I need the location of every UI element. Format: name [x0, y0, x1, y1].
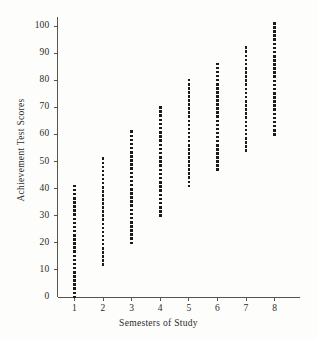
data-point [159, 114, 162, 117]
data-point [159, 181, 162, 184]
data-point [216, 103, 219, 106]
data-point [102, 259, 105, 262]
data-point [273, 117, 276, 120]
data-point [216, 156, 219, 159]
data-point [245, 137, 248, 140]
data-point [245, 79, 248, 82]
data-point [216, 71, 219, 74]
data-point [102, 194, 105, 197]
data-point [73, 267, 76, 270]
x-tick-label: 1 [68, 303, 82, 313]
data-point [216, 124, 219, 127]
data-point [159, 202, 162, 205]
scatter-plot-figure: 0102030405060708090100 12345678 Achievem… [0, 0, 317, 339]
data-point [130, 139, 133, 142]
data-point [216, 148, 219, 151]
y-tick-label: 40 [24, 183, 50, 193]
data-point [273, 63, 276, 66]
data-point [188, 120, 191, 123]
data-point [216, 75, 219, 78]
data-point [159, 160, 162, 163]
x-tick-label: 4 [153, 303, 167, 313]
data-point [130, 151, 133, 154]
data-point [245, 145, 248, 148]
data-point [245, 112, 248, 115]
data-point [245, 92, 248, 95]
data-point [102, 227, 105, 230]
data-point [73, 271, 76, 274]
data-point [245, 46, 248, 49]
data-point [130, 180, 133, 183]
data-point [216, 144, 219, 147]
data-point [102, 202, 105, 205]
data-point [273, 75, 276, 78]
data-point [159, 185, 162, 188]
data-point [216, 107, 219, 110]
data-point [130, 221, 133, 224]
data-point [159, 169, 162, 172]
data-point [73, 234, 76, 237]
data-point [273, 100, 276, 103]
data-point [273, 84, 276, 87]
data-point [273, 30, 276, 33]
x-tick-label: 5 [182, 303, 196, 313]
data-point [102, 166, 105, 169]
data-point [188, 99, 191, 102]
data-point [188, 140, 191, 143]
x-axis-title: Semesters of Study [0, 318, 317, 328]
data-point [188, 172, 191, 175]
data-point [188, 87, 191, 90]
data-point [130, 225, 133, 228]
data-point [159, 194, 162, 197]
data-point [273, 26, 276, 29]
y-tick-label: 60 [24, 128, 50, 138]
data-point [188, 185, 191, 188]
data-point [273, 71, 276, 74]
data-point [130, 135, 133, 138]
data-point [102, 231, 105, 234]
data-point [159, 106, 162, 109]
data-point [216, 128, 219, 131]
data-point [245, 83, 248, 86]
data-point [216, 160, 219, 163]
data-point [73, 201, 76, 204]
y-axis-title: Achievement Test Scores [16, 85, 26, 215]
data-point [130, 167, 133, 170]
data-point [73, 287, 76, 290]
data-point [130, 184, 133, 187]
data-point [159, 210, 162, 213]
data-point [73, 275, 76, 278]
data-point [273, 125, 276, 128]
data-point [73, 197, 76, 200]
data-point [188, 136, 191, 139]
data-point [188, 148, 191, 151]
data-point [102, 198, 105, 201]
data-point [245, 116, 248, 119]
data-point [159, 110, 162, 113]
data-point [188, 168, 191, 171]
data-point [73, 279, 76, 282]
data-point [130, 130, 133, 133]
data-point [130, 237, 133, 240]
data-point [245, 133, 248, 136]
data-point [216, 63, 219, 66]
data-point [273, 43, 276, 46]
data-point [130, 163, 133, 166]
data-point [159, 148, 162, 151]
data-point [273, 108, 276, 111]
data-point [130, 200, 133, 203]
data-point [102, 263, 105, 266]
data-point [159, 123, 162, 126]
data-point [73, 218, 76, 221]
data-point [188, 124, 191, 127]
data-point [159, 131, 162, 134]
data-point [273, 121, 276, 124]
data-point [73, 296, 76, 299]
data-point [188, 144, 191, 147]
data-point [216, 83, 219, 86]
data-point [102, 239, 105, 242]
y-tick-label: 0 [24, 291, 50, 301]
data-point [188, 156, 191, 159]
data-point [159, 127, 162, 130]
data-point [159, 206, 162, 209]
